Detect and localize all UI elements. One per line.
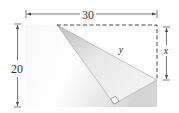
arrow-right-icon [152,12,156,15]
arrow-left-icon [27,12,31,15]
x-dimension: x [163,27,170,80]
arrow-down-icon [165,75,168,79]
y-label: y [118,44,124,55]
arrow-down-icon [16,102,19,106]
height-label: 20 [11,62,23,76]
diagram-svg: 30 20 x y [0,0,179,113]
arrow-up-icon [165,28,168,32]
arrow-up-icon [16,25,19,29]
width-dimension: 30 [26,8,157,22]
width-label: 30 [82,8,94,22]
folded-paper-diagram: 30 20 x y [0,0,179,113]
x-label: x [163,45,169,56]
height-dimension: 20 [11,24,23,107]
